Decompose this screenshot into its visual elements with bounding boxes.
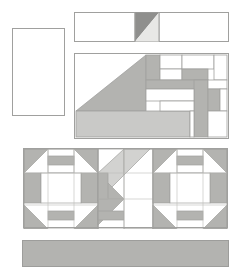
cell-right-white-b [220, 89, 227, 111]
cell-right-white-a [208, 80, 227, 89]
cell-vertical-gray-bar [194, 80, 208, 137]
three-block-panel [22, 147, 229, 229]
right-block-center [170, 173, 210, 203]
left-block-center [41, 173, 81, 203]
bottom-solid-border-strip [23, 241, 229, 267]
bottom-strip-svg [22, 240, 229, 267]
cell-inner-white-a [146, 89, 194, 101]
cell-top-white-a [160, 55, 182, 69]
octagon-block-right [153, 149, 227, 229]
top-strip-panel [74, 12, 229, 42]
cell-gray-bar-upper [182, 69, 208, 80]
left-block-top-bar [48, 156, 74, 165]
cell-top-white-d [214, 55, 227, 80]
bottom-strip-panel [22, 240, 229, 267]
cell-top-white-c [182, 55, 214, 69]
left-block-left-bar [24, 173, 41, 203]
right-block-bottom-bar [177, 211, 203, 220]
right-block-right-bar [210, 173, 227, 203]
quilt-layout-canvas [0, 0, 237, 277]
cell-right-white-c [208, 111, 227, 137]
cell-top-vertical-gray [146, 55, 160, 80]
cell-top-white-b [160, 69, 182, 80]
right-block-left-bar [153, 173, 170, 203]
right-block-top-bar [177, 156, 203, 165]
bottom-light-bar [76, 111, 190, 137]
center-bottom-bar [98, 211, 124, 220]
left-block-bottom-bar [48, 211, 74, 220]
center-left-bar [98, 173, 108, 199]
left-tall-panel-svg [12, 28, 65, 116]
center-block-svg [74, 53, 229, 139]
left-tall-panel [12, 28, 65, 116]
left-block-right-bar [81, 173, 98, 203]
cell-inner-white-b [160, 101, 194, 111]
top-strip-svg [74, 12, 229, 42]
cell-bottom-white-sliver [190, 111, 194, 137]
octagon-block-left [24, 149, 98, 229]
three-block-svg [22, 147, 229, 229]
center-block-panel [74, 53, 229, 139]
cell-right-gray-block [208, 89, 220, 111]
plain-rectangle [13, 29, 65, 116]
